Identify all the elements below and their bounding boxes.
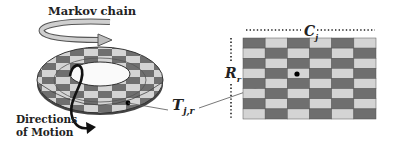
grid-tile <box>265 89 287 99</box>
grid-tile <box>243 68 265 78</box>
grid-tile <box>243 38 265 48</box>
grid-tile <box>354 38 376 48</box>
grid-tile <box>332 38 354 48</box>
grid-tile <box>354 109 376 119</box>
column-symbol: C <box>304 23 315 39</box>
grid-tile <box>354 68 376 78</box>
directions-line-1: Directions <box>16 113 77 126</box>
grid-tile <box>310 68 332 78</box>
grid-tile <box>310 89 332 99</box>
grid-tile <box>265 48 287 58</box>
grid-tile <box>332 109 354 119</box>
grid-tile <box>287 109 309 119</box>
toroidal-grid-diagram: Markov chain Directions of Motion Tj,r C… <box>0 0 393 145</box>
grid-tile <box>287 58 309 68</box>
grid-tile <box>265 68 287 78</box>
grid-tile <box>332 48 354 58</box>
tile-subscript: j,r <box>183 106 194 116</box>
grid-tile <box>265 109 287 119</box>
grid-tile <box>243 89 265 99</box>
grid-tile <box>332 68 354 78</box>
grid-tile <box>265 79 287 89</box>
grid-tile <box>332 79 354 89</box>
grid-tile <box>354 79 376 89</box>
grid-tile <box>243 99 265 109</box>
grid-tile <box>243 58 265 68</box>
grid-tile <box>265 38 287 48</box>
torus-shape <box>30 40 170 120</box>
grid-tile <box>287 89 309 99</box>
markov-chain-label: Markov chain <box>48 4 136 18</box>
grid-tile <box>287 48 309 58</box>
grid-tile <box>265 99 287 109</box>
grid-tile <box>243 48 265 58</box>
grid-tile <box>354 58 376 68</box>
directions-line-2: of Motion <box>16 126 77 139</box>
grid-tile <box>287 79 309 89</box>
grid-tile <box>332 99 354 109</box>
grid-tile <box>354 89 376 99</box>
row-subscript: r <box>237 74 241 84</box>
grid-tile <box>310 48 332 58</box>
grid-tile-marker <box>294 71 299 76</box>
grid-tile <box>354 99 376 109</box>
grid-tile <box>332 58 354 68</box>
tile-symbol: T <box>172 96 183 114</box>
column-subscript: j <box>315 32 318 42</box>
directions-of-motion-label: Directions of Motion <box>16 113 77 139</box>
unwrapped-grid <box>243 38 376 119</box>
grid-tile <box>310 109 332 119</box>
grid-tile <box>243 109 265 119</box>
grid-tile <box>310 99 332 109</box>
column-label: Cj <box>304 23 318 42</box>
grid-tile <box>243 79 265 89</box>
tile-label: Tj,r <box>172 96 194 116</box>
grid-tile <box>332 89 354 99</box>
grid-tile <box>265 58 287 68</box>
grid-tile <box>310 58 332 68</box>
grid-tile <box>354 48 376 58</box>
row-label: Rr <box>225 65 241 84</box>
grid-tile <box>287 99 309 109</box>
grid-tile <box>310 79 332 89</box>
row-symbol: R <box>225 65 237 81</box>
